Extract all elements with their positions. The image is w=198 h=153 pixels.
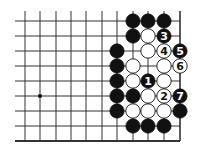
stone-circle (141, 14, 155, 28)
move-number-label: 1 (144, 75, 152, 88)
white-stone (141, 44, 155, 58)
black-stone (157, 14, 171, 28)
stone-circle (157, 74, 171, 88)
stone-circle (141, 89, 155, 103)
black-stone (110, 59, 124, 73)
white-stone (126, 59, 140, 73)
stone-circle (157, 119, 171, 133)
stone-circle (141, 29, 155, 43)
stone-circle (110, 74, 124, 88)
black-stone (110, 104, 124, 118)
stone-circle (126, 14, 140, 28)
white-stone (157, 104, 171, 118)
black-stone-move-1: 1 (141, 74, 155, 88)
black-stone (126, 89, 140, 103)
move-number-label: 6 (176, 60, 184, 73)
white-stone (126, 74, 140, 88)
grid-lines (15, 11, 180, 141)
stone-circle (173, 104, 187, 118)
black-stone (110, 44, 124, 58)
black-stone (126, 29, 140, 43)
stone-circle (110, 59, 124, 73)
white-stone (141, 104, 155, 118)
white-stone-move-4: 4 (157, 44, 171, 58)
star-points (38, 94, 42, 98)
black-stone (110, 89, 124, 103)
black-stone (141, 14, 155, 28)
stone-circle (157, 59, 171, 73)
stone-circle (141, 119, 155, 133)
stone-circle (141, 104, 155, 118)
white-stone-move-6: 6 (173, 59, 187, 73)
stone-circle (126, 119, 140, 133)
stone-circle (126, 29, 140, 43)
black-stone (110, 74, 124, 88)
move-number-label: 5 (176, 45, 184, 58)
stone-circle (141, 44, 155, 58)
move-number-label: 3 (160, 30, 168, 43)
black-stone-move-5: 5 (173, 44, 187, 58)
stone-circle (110, 44, 124, 58)
black-stone (157, 119, 171, 133)
black-stone (173, 104, 187, 118)
white-stone (157, 59, 171, 73)
go-board: 3456127 (0, 0, 198, 153)
black-stone-move-3: 3 (157, 29, 171, 43)
white-stone (157, 74, 171, 88)
white-stone (141, 89, 155, 103)
black-stone (126, 14, 140, 28)
black-stone-move-7: 7 (173, 89, 187, 103)
stone-circle (110, 104, 124, 118)
black-stone (141, 119, 155, 133)
move-number-label: 4 (160, 45, 168, 58)
move-number-label: 7 (176, 90, 184, 103)
white-stone (126, 104, 140, 118)
stone-circle (110, 89, 124, 103)
stone-circle (157, 104, 171, 118)
stone-circle (126, 104, 140, 118)
stone-circle (126, 89, 140, 103)
black-stone (126, 119, 140, 133)
white-stone (141, 29, 155, 43)
white-stone-move-2: 2 (157, 89, 171, 103)
stone-circle (157, 14, 171, 28)
move-number-label: 2 (160, 90, 168, 103)
stone-circle (126, 59, 140, 73)
star-point (38, 94, 42, 98)
stone-circle (126, 74, 140, 88)
